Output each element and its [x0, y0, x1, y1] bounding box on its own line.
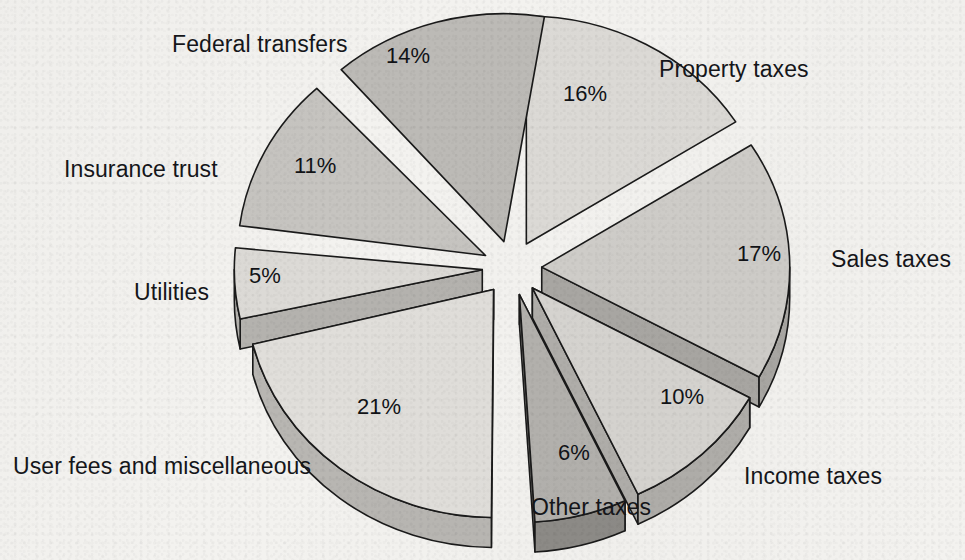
pie-percent-utilities: 5%: [249, 264, 281, 288]
pie-label-insurance-trust: Insurance trust: [64, 156, 218, 182]
pie-percent-federal-transfers: 14%: [386, 44, 430, 68]
pie-percent-other-taxes: 6%: [558, 441, 590, 465]
pie-percent-user-fees: 21%: [357, 395, 401, 419]
pie-percent-property-taxes: 16%: [563, 82, 607, 106]
pie-label-user-fees: User fees and miscellaneous: [13, 453, 311, 479]
pie-percent-insurance-trust: 11%: [294, 154, 336, 178]
pie-label-property-taxes: Property taxes: [659, 56, 809, 82]
pie-label-other-taxes: Other taxes: [531, 494, 651, 520]
pie-percent-sales-taxes: 17%: [737, 242, 781, 266]
pie-label-income-taxes: Income taxes: [744, 463, 882, 489]
pie-label-federal-transfers: Federal transfers: [172, 31, 348, 57]
pie-slice-layer: [234, 14, 789, 552]
pie-label-utilities: Utilities: [134, 279, 209, 305]
pie-label-sales-taxes: Sales taxes: [831, 246, 951, 272]
pie-percent-income-taxes: 10%: [660, 385, 704, 409]
